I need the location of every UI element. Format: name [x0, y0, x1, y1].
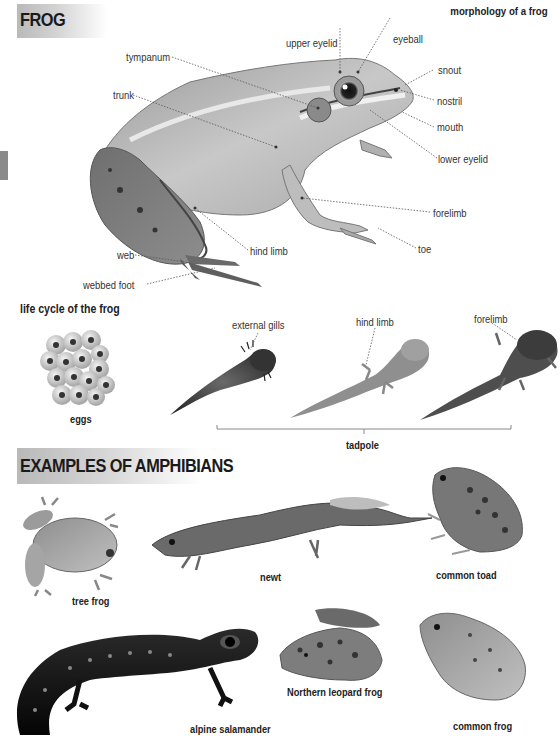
caption-common-frog: common frog: [453, 720, 512, 732]
newt-icon: [152, 497, 432, 570]
caption-tree-frog: tree frog: [72, 595, 109, 607]
caption-newt: newt: [260, 571, 281, 583]
caption-northern-leopard-frog: Northern leopard frog: [287, 686, 382, 698]
common-frog-icon: [420, 613, 525, 700]
common-toad-icon: [428, 468, 522, 554]
amphibian-illustrations: [0, 0, 560, 736]
tree-frog-icon: [20, 497, 118, 596]
alpine-salamander-icon: [17, 629, 258, 735]
northern-leopard-frog-icon: [280, 608, 382, 680]
caption-common-toad: common toad: [436, 569, 497, 581]
caption-alpine-salamander: alpine salamander: [190, 723, 271, 735]
